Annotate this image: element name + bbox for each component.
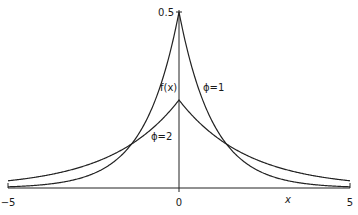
x-tick-label-max: 5 — [347, 197, 353, 208]
x-tick-label-min: −5 — [1, 197, 16, 208]
laplace-density-chart: 0.5 −5 0 5 x f(x) ϕ=1 ϕ=2 — [0, 0, 358, 215]
labels: 0.5 −5 0 5 x f(x) ϕ=1 ϕ=2 — [1, 7, 354, 208]
phi-2-label: ϕ=2 — [151, 131, 172, 142]
axes — [8, 10, 350, 192]
f-x-label: f(x) — [160, 82, 177, 93]
y-tick-label-top: 0.5 — [158, 7, 174, 18]
phi-1-label: ϕ=1 — [203, 82, 224, 93]
x-axis-label: x — [284, 194, 291, 205]
x-tick-label-zero: 0 — [176, 197, 182, 208]
